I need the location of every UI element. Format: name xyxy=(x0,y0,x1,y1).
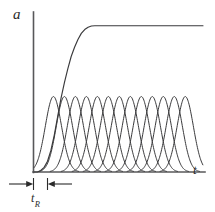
gaussian-pulse-01 xyxy=(34,97,78,172)
x-axis-label: t xyxy=(193,163,197,176)
cumulative-sigmoid xyxy=(34,26,203,172)
interval-label-base: t xyxy=(31,191,34,205)
dimension-arrowhead-right xyxy=(48,181,55,187)
dimension-arrowhead-left xyxy=(26,181,33,187)
interval-label-subscript: R xyxy=(35,199,40,209)
chart-canvas xyxy=(0,0,215,212)
plot-curves-group xyxy=(34,26,203,172)
interval-label-tr: tR xyxy=(31,192,40,207)
gaussian-pulse-13 xyxy=(160,97,203,172)
y-axis-label: a xyxy=(13,7,21,22)
axes-group xyxy=(33,12,205,173)
interval-dimension-group xyxy=(9,178,72,190)
figure-container: a t tR xyxy=(0,0,215,212)
